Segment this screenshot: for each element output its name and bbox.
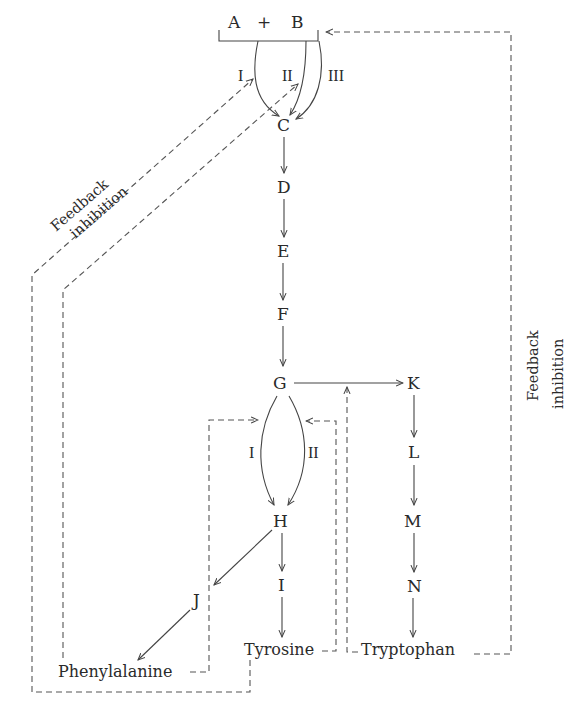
feedback-tyrosine-to-enzyme-1-top — [32, 79, 253, 692]
feedback-phenylalanine-to-enzyme-1-mid — [190, 420, 258, 672]
node-g: G — [273, 373, 287, 393]
node-l: L — [408, 442, 419, 462]
enzyme-label-2-mid: II — [308, 444, 319, 461]
enzyme-label-1-top: I — [238, 67, 243, 84]
feedback-right-line1: Feedback — [525, 330, 541, 401]
node-k: K — [407, 373, 420, 393]
enzyme-label-3-top: III — [328, 67, 344, 84]
arc-enzyme-3-ab-c — [296, 41, 321, 119]
edge-j-phenylalanine — [138, 610, 190, 660]
feedback-tryptophan-to-g-k — [347, 387, 358, 652]
feedback-tryptophan-to-enzyme-3-top — [326, 32, 511, 654]
plus-sign: + — [257, 12, 271, 32]
arc-enzyme-2-g-h — [288, 396, 305, 505]
node-f: F — [277, 304, 289, 324]
pathway-diagram: A + B I II III C D E F G K I II H J Phen… — [0, 0, 586, 710]
feedback-label-right: Feedback inhibition — [525, 330, 566, 409]
product-tryptophan: Tryptophan — [361, 640, 455, 659]
enzyme-label-2-top: II — [282, 67, 293, 84]
feedback-right-line2: inhibition — [550, 339, 566, 409]
node-m: M — [404, 511, 421, 531]
enzyme-label-1-mid: I — [249, 444, 254, 461]
substrates-group: A + B — [219, 12, 318, 41]
node-c: C — [277, 115, 290, 135]
node-e: E — [277, 241, 289, 261]
feedback-phenylalanine-to-enzyme-2-top — [63, 84, 298, 658]
node-n: N — [407, 576, 422, 596]
arc-enzyme-1-ab-c — [255, 41, 279, 116]
arc-enzyme-1-g-h — [261, 396, 277, 505]
feedback-label-left: Feedback inhibition — [47, 169, 130, 247]
node-i: I — [278, 575, 285, 595]
node-d: D — [277, 177, 291, 197]
edge-h-j — [214, 530, 272, 585]
node-h: H — [273, 511, 288, 531]
product-tyrosine: Tyrosine — [244, 640, 314, 659]
node-b: B — [291, 12, 304, 32]
node-a: A — [227, 12, 241, 32]
product-phenylalanine: Phenylalanine — [58, 662, 172, 681]
node-j: J — [191, 590, 200, 610]
